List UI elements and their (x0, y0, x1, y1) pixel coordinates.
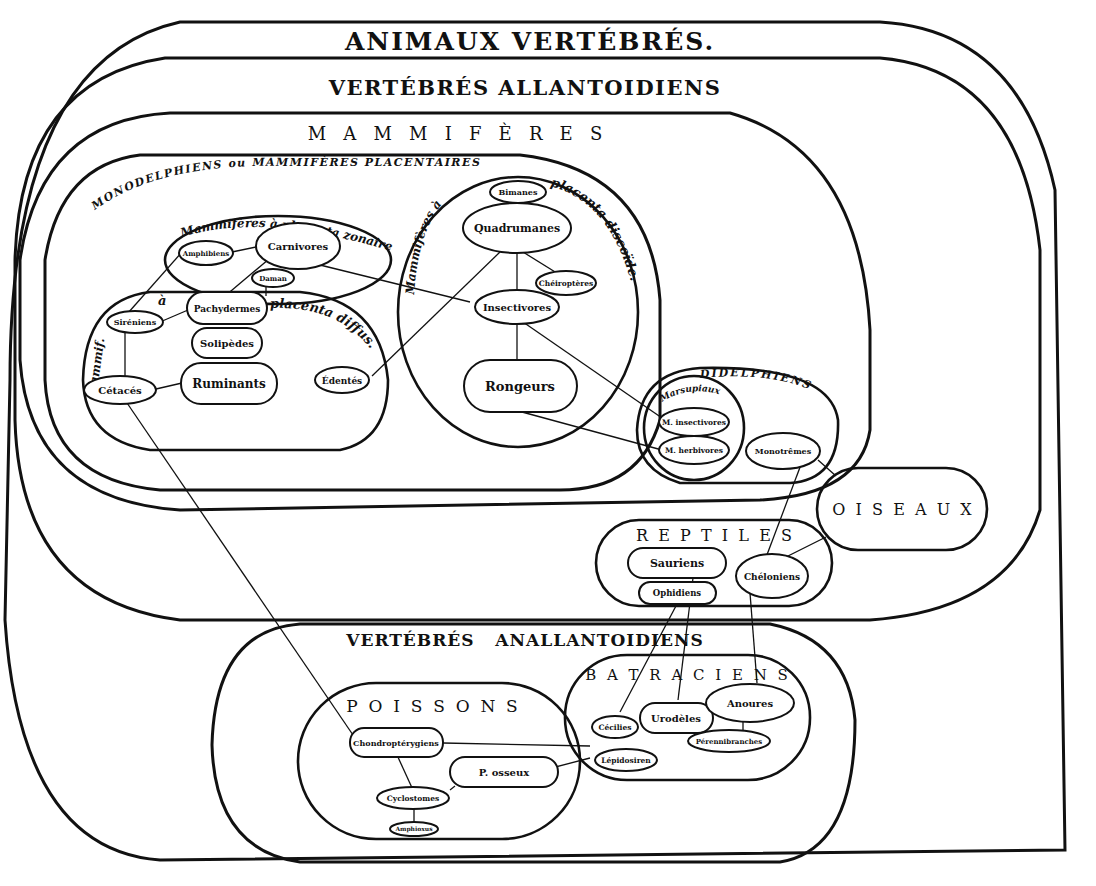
reptiles-title: R E P T I L E S (636, 526, 792, 545)
svg-text:M. insectivores: M. insectivores (662, 418, 726, 427)
node-bimanes: Bimanes (490, 181, 546, 203)
svg-text:P. osseux: P. osseux (479, 767, 530, 778)
node-daman: Daman (252, 269, 294, 287)
node-rongeurs: Rongeurs (464, 360, 577, 412)
svg-text:Amphibiens: Amphibiens (182, 249, 230, 258)
node-quadrumanes: Quadrumanes (463, 203, 571, 253)
node-urodeles: Urodèles (640, 703, 713, 733)
svg-text:Anoures: Anoures (726, 698, 774, 709)
node-solipedes: Solipèdes (192, 328, 262, 358)
svg-text:Quadrumanes: Quadrumanes (474, 222, 560, 235)
node-edentes: Édentés (315, 367, 369, 393)
vertebres-anallantoidiens-title: VERTÉBRÉS ANALLANTOIDIENS (345, 630, 704, 650)
node-monotremes: Monotrêmes (746, 433, 820, 469)
svg-text:Solipèdes: Solipèdes (200, 338, 254, 349)
node-cecilies: Cécilies (592, 716, 638, 738)
node-ophidiens: Ophidiens (639, 582, 716, 604)
node-perennibranches: Pérennibranches (688, 730, 770, 752)
placenta-diffus-title: placenta diffus. (270, 296, 380, 351)
svg-text:Bimanes: Bimanes (499, 187, 538, 197)
animaux-vertebres-title: ANIMAUX VERTÉBRÉS. (344, 27, 715, 56)
svg-text:Ophidiens: Ophidiens (653, 588, 702, 598)
node-cheloniens: Chéloniens (736, 554, 808, 598)
svg-text:Siréniens: Siréniens (114, 317, 157, 327)
placenta-diffus-a: à (158, 293, 166, 308)
vertebrate-classification-diagram: ANIMAUX VERTÉBRÉS. VERTÉBRÉS ALLANTOIDIE… (0, 0, 1096, 886)
node-m-insectivores: M. insectivores (659, 408, 729, 436)
svg-text:Daman: Daman (259, 274, 287, 283)
svg-text:Chéiroptères: Chéiroptères (539, 279, 593, 288)
node-amphibiens: Amphibiens (179, 241, 233, 265)
node-cyclostomes: Cyclostomes (377, 787, 449, 809)
svg-text:Urodèles: Urodèles (651, 713, 701, 724)
svg-text:Cyclostomes: Cyclostomes (387, 794, 439, 803)
svg-text:Carnivores: Carnivores (268, 241, 329, 252)
svg-text:Amphioxus: Amphioxus (394, 825, 433, 833)
monodelphiens-title: MONODELPHIENS ou MAMMIFÈRES PLACENTAIRES (88, 155, 481, 213)
svg-text:Édentés: Édentés (322, 375, 362, 386)
svg-text:Pérennibranches: Pérennibranches (696, 737, 763, 746)
node-cheiropteres: Chéiroptères (536, 271, 596, 295)
svg-text:Cétacés: Cétacés (98, 385, 142, 396)
svg-text:Insectivores: Insectivores (483, 302, 552, 313)
animaux-vertebres-frame (5, 22, 1065, 860)
node-p-osseux: P. osseux (450, 757, 558, 787)
oiseaux-title: O I S E A U X (832, 500, 972, 519)
mammiferes-title: M A M M I F È R E S (308, 122, 603, 144)
poissons-title: P O I S S O N S (346, 696, 518, 716)
svg-text:Ruminants: Ruminants (192, 377, 266, 391)
svg-text:Lépidosiren: Lépidosiren (601, 756, 651, 765)
node-insectivores: Insectivores (475, 290, 559, 324)
node-amphioxus: Amphioxus (390, 822, 438, 836)
node-lepidosiren: Lépidosiren (595, 749, 657, 771)
svg-text:M. herbivores: M. herbivores (665, 446, 723, 455)
placenta-discoide-left-title: Mammifères à (403, 197, 444, 296)
svg-text:Chéloniens: Chéloniens (744, 572, 800, 582)
vertebres-allantoidiens-title: VERTÉBRÉS ALLANTOIDIENS (328, 75, 722, 100)
node-m-herbivores: M. herbivores (659, 436, 729, 464)
svg-text:Sauriens: Sauriens (650, 557, 704, 570)
node-ruminants: Ruminants (181, 363, 277, 404)
node-pachydermes: Pachydermes (187, 292, 267, 324)
node-sireniens: Siréniens (107, 311, 163, 333)
svg-text:Monotrêmes: Monotrêmes (755, 446, 812, 456)
svg-text:Pachydermes: Pachydermes (194, 304, 261, 314)
marsupiaux-title: Marsupiaux (657, 383, 721, 404)
node-anoures: Anoures (706, 684, 794, 722)
svg-text:Chondroptérygiens: Chondroptérygiens (353, 738, 439, 748)
batraciens-title: B A T R A C I E N S (585, 666, 791, 684)
svg-text:Cécilies: Cécilies (599, 723, 632, 732)
node-sauriens: Sauriens (628, 548, 726, 578)
svg-text:Rongeurs: Rongeurs (485, 379, 555, 394)
node-carnivores: Carnivores (256, 223, 340, 269)
node-cetaces: Cétacés (84, 376, 156, 404)
node-chondropterygiens: Chondroptérygiens (350, 728, 443, 757)
